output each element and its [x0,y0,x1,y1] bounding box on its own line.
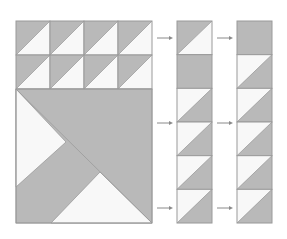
quilt-diagram: Quilt block construction: half-square tr… [0,0,287,239]
hst-unit [118,55,152,89]
arrow-right-icon [217,206,233,210]
hst-unit [50,55,84,89]
hst-unit [237,21,272,55]
hst-unit [177,156,212,190]
hst-unit [237,55,272,89]
diagram-canvas [0,0,287,239]
large-block [16,89,152,223]
hst-unit [177,189,212,223]
hst-unit [237,189,272,223]
right-strip [237,21,272,223]
arrow-right-icon [217,121,233,125]
arrow-right-icon [157,121,173,125]
hst-unit [177,21,212,55]
arrow-right-icon [157,36,173,40]
arrow-right-icon [217,36,233,40]
hst-unit [177,122,212,156]
hst-unit [237,88,272,122]
hst-unit [177,55,212,89]
hst-unit [118,21,152,55]
arrow-right-icon [157,206,173,210]
hst-unit [84,21,118,55]
hst-unit [16,55,50,89]
hst-strips [177,21,272,223]
hst-unit [177,88,212,122]
hst-unit [84,55,118,89]
left-quilt-block [16,21,152,223]
hst-unit [237,122,272,156]
middle-strip [177,21,212,223]
hst-unit [16,21,50,55]
hst-unit [50,21,84,55]
hst-unit [237,156,272,190]
